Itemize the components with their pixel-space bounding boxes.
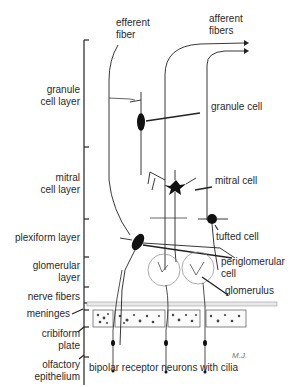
artist-signature: M.J. [232, 350, 247, 362]
label-line: cell [221, 268, 285, 280]
label-line: nerve fibers [28, 291, 80, 303]
label-afferent-fibers: afferent fibers [209, 13, 243, 37]
label-line: fibers [209, 25, 243, 37]
label-mitral-cell-layer: mitral cell layer [41, 172, 80, 196]
label-plexiform-layer: plexiform layer [15, 232, 80, 244]
tufted-cell-body [207, 214, 217, 224]
meninges-band [87, 302, 277, 306]
efferent-fiber [109, 45, 130, 235]
label-olfactory-epithelium: olfactory epithelium [34, 359, 80, 383]
label-line: meninges [27, 308, 70, 320]
cribiform-plate [93, 310, 246, 327]
label-granule-cell: granule cell [211, 101, 262, 113]
label-line: mitral [41, 172, 80, 184]
mitral-cell-pointer [195, 187, 212, 190]
glomerulus-2 [182, 252, 214, 284]
label-tufted-cell: tufted cell [216, 231, 259, 243]
label-line: epithelium [34, 371, 80, 383]
label-bipolar-receptor-neurons: bipolar receptor neurons with cilia [89, 362, 238, 374]
label-line: plate [42, 340, 80, 352]
label-cribiform-plate: cribiform plate [42, 328, 80, 352]
label-line: cell layer [41, 96, 80, 108]
label-line: cribiform [42, 328, 80, 340]
label-line: olfactory [34, 359, 80, 371]
label-line: periglomerular [221, 256, 285, 268]
label-line: afferent [209, 13, 243, 25]
label-line: cell layer [41, 184, 80, 196]
label-periglomerular-cell: periglomerular cell [221, 256, 285, 280]
label-line: efferent [116, 17, 150, 29]
label-line: plexiform layer [15, 232, 80, 244]
label-line: glomerular [33, 260, 80, 272]
label-line: granule [41, 84, 80, 96]
label-efferent-fiber: efferent fiber [116, 17, 150, 41]
granule-cell-body [137, 113, 145, 131]
afferent-arrow-2 [244, 48, 249, 54]
label-granule-cell-layer: granule cell layer [41, 84, 80, 108]
label-glomerular-layer: glomerular layer [33, 260, 80, 284]
periglomerular-cell-body [129, 232, 147, 253]
label-meninges: meninges [27, 308, 70, 320]
label-glomerulus: glomerulus [225, 285, 274, 297]
label-line: layer [33, 272, 80, 284]
granule-cell-pointer [146, 113, 200, 121]
label-mitral-cell: mitral cell [215, 175, 257, 187]
afferent-arrow-1 [244, 40, 249, 46]
label-nerve-fibers: nerve fibers [28, 291, 80, 303]
label-line: fiber [116, 29, 150, 41]
